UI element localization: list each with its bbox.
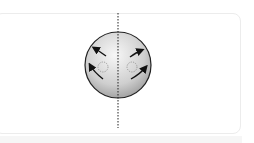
sphere-diagram	[0, 0, 254, 143]
